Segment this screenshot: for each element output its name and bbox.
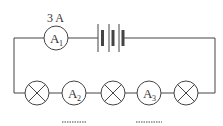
a1-sub: 1: [59, 39, 63, 48]
circuit-diagram: 3 A A 1 A 2 A 3: [0, 0, 223, 126]
lamp-icon: [25, 81, 49, 105]
a1-reading: 3 A: [47, 11, 64, 25]
lamp-icon: [101, 81, 125, 105]
a3-sub: 3: [152, 94, 156, 103]
a2-sub: 2: [77, 94, 81, 103]
battery-icon: [98, 24, 123, 52]
lamp-icon: [174, 81, 198, 105]
